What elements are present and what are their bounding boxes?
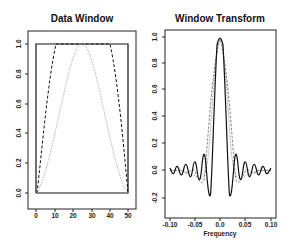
svg-text:-0.10: -0.10	[163, 221, 178, 228]
svg-text:0.6: 0.6	[15, 99, 22, 108]
svg-text:-0.05: -0.05	[188, 221, 203, 228]
left-plot-frame	[28, 31, 136, 209]
left-chart-title: Data Window	[51, 13, 114, 24]
right-x-axis-label: Frequency	[204, 230, 237, 238]
svg-text:40: 40	[106, 212, 114, 219]
window-transform-panel: Window Transform -0.2 0.0 0.2 0.4 0.6 0.…	[151, 13, 278, 238]
right-y-axis: -0.2 0.0 0.2 0.4 0.6 0.8 1.0	[151, 32, 165, 203]
svg-text:10: 10	[51, 212, 59, 219]
svg-text:0.8: 0.8	[151, 58, 158, 67]
svg-text:0.4: 0.4	[151, 111, 158, 120]
svg-text:1.0: 1.0	[15, 39, 22, 48]
cosine-bell-transform-line	[170, 39, 271, 179]
right-plot-frame	[165, 30, 276, 218]
svg-text:0.0: 0.0	[215, 221, 224, 228]
svg-text:-0.2: -0.2	[151, 192, 158, 204]
svg-text:30: 30	[88, 212, 96, 219]
left-x-axis: 0 10 20 30 40 50	[34, 209, 132, 219]
svg-text:0.05: 0.05	[239, 221, 252, 228]
svg-text:0.0: 0.0	[15, 188, 22, 197]
svg-text:50: 50	[124, 212, 132, 219]
svg-text:0: 0	[34, 212, 38, 219]
svg-text:0.4: 0.4	[15, 128, 22, 137]
svg-text:1.0: 1.0	[151, 32, 158, 41]
right-x-axis: -0.10 -0.05 0.0 0.05 0.10 Frequency	[163, 218, 278, 238]
left-y-axis: 0.0 0.2 0.4 0.6 0.8 1.0	[15, 39, 28, 197]
svg-text:0.10: 0.10	[265, 221, 278, 228]
svg-text:0.8: 0.8	[15, 69, 22, 78]
data-window-panel: Data Window 0.0 0.2 0.4 0.6 0.8 1.0 0	[15, 13, 136, 219]
svg-text:0.6: 0.6	[151, 84, 158, 93]
svg-text:20: 20	[69, 212, 77, 219]
right-chart-title: Window Transform	[175, 13, 265, 24]
svg-text:0.2: 0.2	[151, 138, 158, 147]
split-cosine-transform-line	[170, 39, 271, 183]
cosine-bell-window-line	[37, 44, 127, 193]
svg-text:0.0: 0.0	[151, 165, 158, 174]
svg-text:0.2: 0.2	[15, 158, 22, 167]
split-cosine-window-line	[37, 44, 128, 193]
chart-canvas: Data Window 0.0 0.2 0.4 0.6 0.8 1.0 0	[0, 0, 290, 242]
